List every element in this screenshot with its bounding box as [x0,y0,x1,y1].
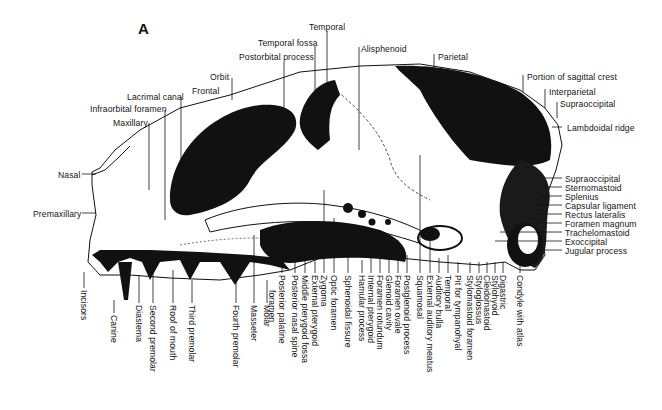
label-lambdoidal-ridge: Lambdoidal ridge [567,123,635,133]
label-sphenoidal-fissure: Sphenoidal fissure [343,275,353,348]
label-pit-for-tympanohyal: Pit for tympanohyal [453,275,463,350]
cat-skull-illustration [0,0,662,410]
label-parietal: Parietal [438,52,468,62]
foramen-2 [358,210,366,218]
label-digastric: Digastric [498,275,508,309]
external-auditory-meatus-shape [420,227,440,241]
label-incisors: Incisors [79,290,89,320]
label-second-premolar: Second premolar [148,305,158,372]
label-portion-sagittal-crest: Portion of sagittal crest [527,72,617,82]
label-posterior-palatine: Posterior palatine [277,275,287,344]
canine-tooth [118,262,132,300]
foramen-4 [385,219,391,225]
label-middle-pterygoid-fossa: Middle pterygoid fossa [300,275,310,363]
foramen-1 [343,203,353,213]
label-temporal-bottom: Temporal [443,275,453,311]
label-roof-of-mouth: Roof of mouth [168,305,178,360]
label-condyle-with-atlas: Condyle with atlas [515,275,525,347]
label-nasal: Nasal [58,170,80,180]
label-fourth-premolar: Fourth premolar [231,305,241,368]
label-squamosal: Squamosal [415,275,425,319]
label-optic-foramen: Optic foramen [329,275,339,330]
label-supraoccipital-top: Supraoccipital [560,99,615,109]
label-frontal: Frontal [192,86,219,96]
label-orbit: Orbit [210,72,229,82]
label-jugular-process: Jugular process [565,246,627,256]
foramen-3 [369,219,376,226]
label-infraorbital-foramen: Infraorbital foramen [90,104,167,114]
label-postorbital-process: Postorbital process [239,52,314,62]
label-diastema: Diastema [134,305,144,342]
label-maxillary: Maxillary [113,118,148,128]
label-interparietal: Interparietal [549,87,596,97]
label-masseter: Masseter [249,305,259,341]
label-temporal-fossa: Temporal fossa [258,38,318,48]
label-temporal-top: Temporal [309,22,345,32]
label-posterior-nasal-spine: Posterior nasal spine [290,275,300,357]
label-posterior-palatine-foramen: foramen [267,290,277,322]
panel-label: A [138,20,149,37]
label-zygoma: Zygoma [319,275,329,307]
label-alisphenoid: Alisphenoid [361,44,407,54]
label-lacrimal-canal: Lacrimal canal [127,92,184,102]
skull-diagram: A Temporal Temporal fossa Postorbital pr… [0,0,662,410]
label-canine: Canine [109,315,119,343]
label-premaxillary: Premaxillary [33,209,81,219]
label-postglenoid-process: Postglenoid process [402,275,412,354]
label-third-premolar: Third premolar [187,305,197,362]
